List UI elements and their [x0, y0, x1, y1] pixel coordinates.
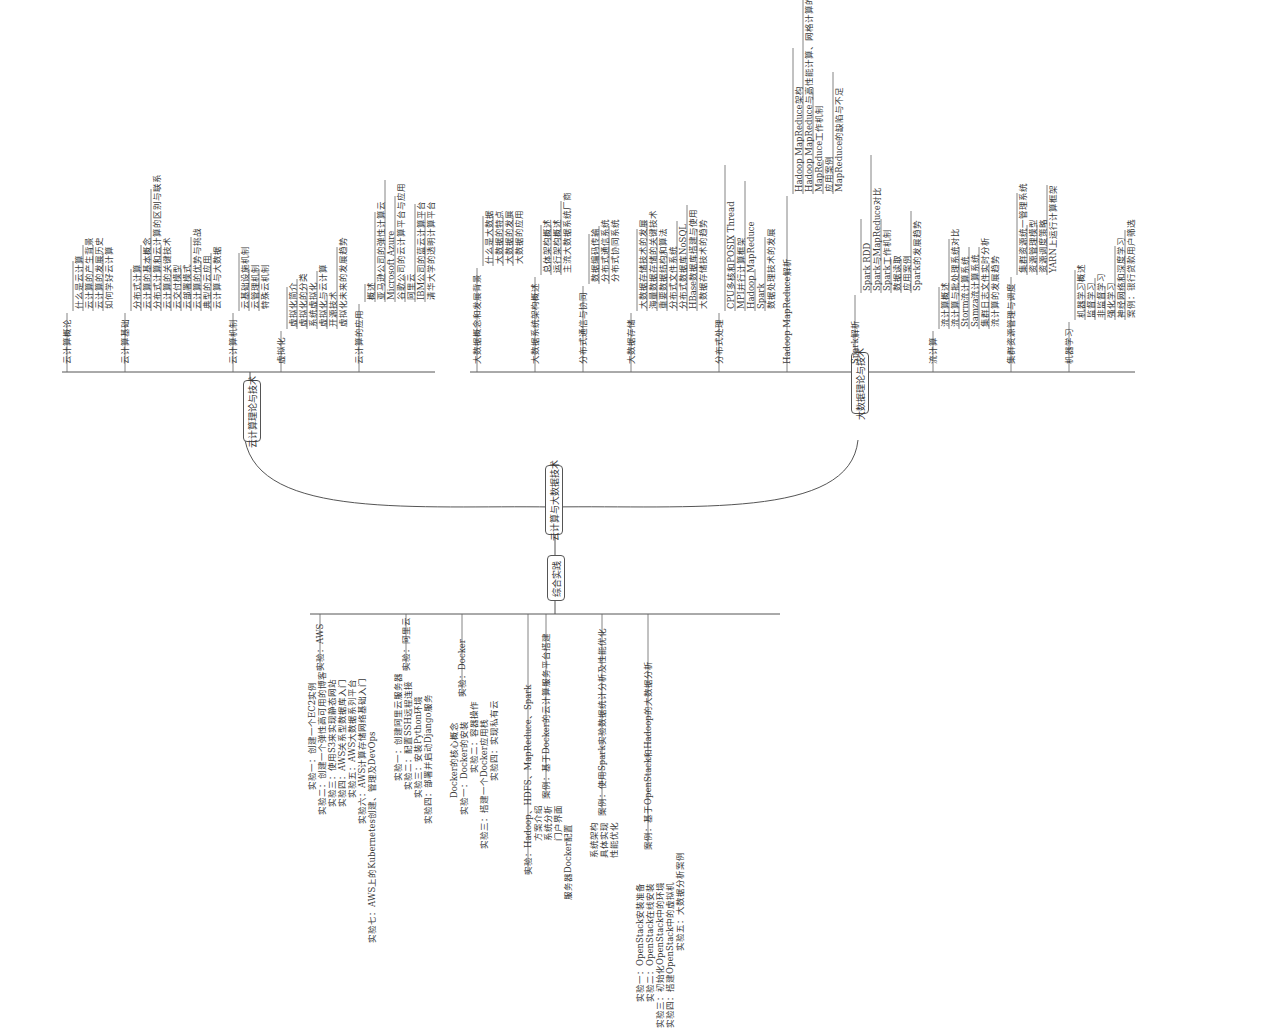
leaf-node[interactable]: 实验一：OpenStack安装准备 [635, 883, 645, 1002]
leaf-node[interactable]: 清华大学的透明计算平台 [426, 201, 436, 300]
leaf-node[interactable]: 重要数据结构和算法 [658, 228, 668, 309]
branch-node[interactable]: 案例：基于OpenStack和Hadoop的大数据分析 [643, 661, 653, 850]
hub-practice[interactable]: 综合实践 [547, 555, 565, 601]
branch-node[interactable]: 实验：阿里云 [401, 617, 411, 671]
leaf-node[interactable]: 大数据的发展 [504, 210, 514, 264]
leaf-node[interactable]: Hadoop MapReduce [746, 221, 756, 309]
leaf-node[interactable]: 什么是云计算 [74, 255, 84, 309]
leaf-node[interactable]: Spark工作机制 [882, 229, 892, 291]
leaf-node[interactable]: 系统虚拟化 [308, 282, 318, 327]
leaf-node[interactable]: CPU多核和POSIX Thread [726, 201, 736, 309]
root-node[interactable]: 云计算与大数据技术 [545, 465, 563, 535]
branch-node[interactable]: 集群资源管理与调度 [1006, 283, 1016, 364]
leaf-node[interactable]: 应用案例 [824, 156, 834, 192]
leaf-node[interactable]: 实验五：AWS大数据系列平台 [347, 679, 357, 798]
leaf-node[interactable]: 实验四：实现私有云 [489, 700, 499, 781]
leaf-node[interactable]: 实验四：AWS关系型数据库入门 [337, 678, 347, 806]
leaf-node[interactable]: 大数据存储技术的趋势 [698, 219, 708, 309]
leaf-node[interactable]: 实验二：容器操作 [469, 701, 479, 773]
leaf-node[interactable]: 云管理机制 [250, 264, 260, 309]
leaf-node[interactable]: 云计算的产生背景 [84, 237, 94, 309]
leaf-node[interactable]: 分布式通信系统 [600, 219, 610, 282]
leaf-node[interactable]: 强化学习 [1106, 282, 1116, 318]
leaf-node[interactable]: 主流大数据系统厂商 [562, 192, 572, 273]
hub-cloud-theory[interactable]: 云计算理论与技术 [243, 380, 261, 442]
leaf-node[interactable]: 阿里云 [406, 273, 416, 300]
leaf-node[interactable]: 谷歌公司的云计算平台与应用 [396, 183, 406, 300]
leaf-node[interactable]: 概述 [366, 282, 376, 300]
leaf-node[interactable]: 实验三：初始化OpenStack中的环境 [655, 881, 665, 1027]
branch-node[interactable]: 云计算机制 [228, 319, 238, 364]
leaf-node[interactable]: 具体实现 [599, 822, 609, 858]
leaf-node[interactable]: 实验五：大数据分析案例 [675, 852, 685, 951]
leaf-node[interactable]: MPI并行计算框架 [736, 237, 746, 309]
leaf-node[interactable]: 云部署模式 [182, 264, 192, 309]
branch-node[interactable]: 机器学习 [1064, 328, 1074, 364]
leaf-node[interactable]: 云计算的关键技术 [162, 237, 172, 309]
leaf-node[interactable]: MapReduce工作机制 [814, 105, 824, 192]
leaf-node[interactable]: Storm流计算系统 [960, 256, 970, 327]
leaf-node[interactable]: 系统架构 [589, 822, 599, 858]
leaf-node[interactable]: 实验三：搭建一个Docker应用栈 [479, 719, 489, 849]
leaf-node[interactable]: 实验二：创建一个弹性高可用的博客 [317, 671, 327, 815]
leaf-node[interactable]: 实验三：使用S3来实现静态网站 [327, 678, 337, 806]
leaf-node[interactable]: 应用案例 [902, 255, 912, 291]
leaf-node[interactable]: 海量数据存储的关键技术 [648, 210, 658, 309]
leaf-node[interactable]: 虚拟化未来的发展趋势 [338, 237, 348, 327]
leaf-node[interactable]: 实验七：AWS上的Kubernetes创建、管理及DevOps [367, 731, 377, 942]
leaf-node[interactable]: 虚拟化的分类 [298, 273, 308, 327]
leaf-node[interactable]: 什么是大数据 [484, 210, 494, 264]
leaf-node[interactable]: Microsoft Azure [386, 231, 396, 300]
branch-node[interactable]: Spark解析 [850, 320, 860, 364]
leaf-node[interactable]: 监督学习 [1086, 282, 1096, 318]
leaf-node[interactable]: 流计算概述 [940, 282, 950, 327]
leaf-node[interactable]: 亚马逊公司的弹性计算云 [376, 201, 386, 300]
branch-node[interactable]: 虚拟化 [276, 337, 286, 364]
branch-node[interactable]: 实验：AWS [315, 624, 325, 671]
leaf-node[interactable]: 方案介绍 [533, 805, 543, 841]
leaf-node[interactable]: 实验四：部署并启动Django服务 [423, 694, 433, 824]
leaf-node[interactable]: Samza流计算系统 [970, 254, 980, 328]
branch-node[interactable]: 实验：Hadoop、HDFS、MapReduce、Spark [523, 685, 533, 875]
leaf-node[interactable]: 神经网络和深度学习 [1116, 237, 1126, 318]
leaf-node[interactable]: 云计算的发展历史 [94, 237, 104, 309]
leaf-node[interactable]: 系统分析 [543, 805, 553, 841]
leaf-node[interactable]: 云计算与大数据 [212, 246, 222, 309]
leaf-node[interactable]: 分布式数据库NoSQL [678, 224, 688, 309]
leaf-node[interactable]: YARN上运行计算框架 [1048, 185, 1058, 273]
leaf-node[interactable]: 集群资源统一管理系统 [1018, 183, 1028, 273]
leaf-node[interactable]: 分布式计算 [132, 264, 142, 309]
leaf-node[interactable]: 数据编码传输 [590, 228, 600, 282]
leaf-node[interactable]: Spark与MapReduce对比 [872, 187, 882, 291]
leaf-node[interactable]: Hadoop MapReduce架构 [794, 86, 804, 192]
leaf-node[interactable]: 云计算的基本概念 [142, 237, 152, 309]
branch-node[interactable]: 实验：Docker [457, 639, 467, 697]
leaf-node[interactable]: 虚拟化与云计算 [318, 264, 328, 327]
leaf-node[interactable]: 实验四：搭建OpenStack中的虚拟机 [665, 881, 675, 1027]
leaf-node[interactable]: 流计算的发展趋势 [990, 255, 1000, 327]
leaf-node[interactable]: HBase数据库搭建与使用 [688, 209, 698, 309]
leaf-node[interactable]: 虚拟化简介 [288, 282, 298, 327]
branch-node[interactable]: 分布式处理 [714, 319, 724, 364]
leaf-node[interactable]: 门户界面 [553, 805, 563, 841]
leaf-node[interactable]: 集群日志文件实时分析 [980, 237, 990, 327]
leaf-node[interactable]: 数据处理技术的发展 [766, 228, 776, 309]
leaf-node[interactable]: 服务器Docker配置 [563, 824, 573, 900]
leaf-node[interactable]: 机器学习概述 [1076, 264, 1086, 318]
leaf-node[interactable]: 实验二：配置SSH远程连接 [403, 681, 413, 790]
leaf-node[interactable]: MapReduce的缺陷与不足 [834, 87, 844, 192]
leaf-node[interactable]: 实验一：创建一个EC2实例 [307, 681, 317, 789]
leaf-node[interactable]: 资源调度策略 [1038, 219, 1048, 273]
leaf-node[interactable]: 总体架构概述 [542, 219, 552, 273]
leaf-node[interactable]: 资源管理模型 [1028, 219, 1038, 273]
leaf-node[interactable]: 实验二：OpenStack在线安装 [645, 883, 655, 1002]
leaf-node[interactable]: 典型的云应用 [202, 255, 212, 309]
leaf-node[interactable]: 案例：银行贷款用户筛选 [1126, 219, 1136, 318]
leaf-node[interactable]: 分布式计算和云计算的区别与联系 [152, 174, 162, 309]
branch-node[interactable]: 大数据存储 [626, 319, 636, 364]
leaf-node[interactable]: 实验一：Docker的安装 [459, 721, 469, 815]
leaf-node[interactable]: 云计算的优势与挑战 [192, 228, 202, 309]
branch-node[interactable]: 云计算概论 [62, 319, 72, 364]
leaf-node[interactable]: 大数据的应用 [514, 210, 524, 264]
leaf-node[interactable]: 非监督学习 [1096, 273, 1106, 318]
